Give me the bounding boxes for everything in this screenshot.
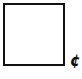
empty-square-box [3,3,65,66]
cent-sign-icon: ¢ [70,53,80,70]
